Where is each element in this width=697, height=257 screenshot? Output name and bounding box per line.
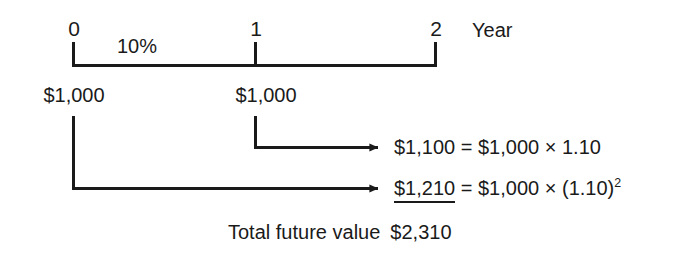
future-value-amount-1: $1,100 <box>394 136 455 158</box>
principal-amount-2: $1,000 <box>478 177 539 199</box>
future-value-amount-2: $1,210 <box>394 177 455 203</box>
future-value-timeline-diagram: 0 1 2 10% Year $1,000 $1,000 $1,100 = $1… <box>0 0 697 257</box>
multiply-sign-1: × <box>545 136 557 158</box>
total-future-value-row: Total future value$2,310 <box>228 222 452 242</box>
cash-flow-year-1: $1,000 <box>235 85 296 105</box>
growth-factor-2: (1.10) <box>562 177 614 199</box>
interest-rate-label: 10% <box>117 36 157 56</box>
cash-flow-year-0: $1,000 <box>43 85 104 105</box>
flow-path-year-1 <box>256 116 379 148</box>
axis-title-year: Year <box>472 20 512 40</box>
multiply-sign-2: × <box>545 177 557 199</box>
total-future-value-caption: Total future value <box>228 221 380 243</box>
growth-factor-exponent-2: 2 <box>614 176 621 190</box>
growth-factor-1: 1.10 <box>562 136 601 158</box>
tick-label-year-2: 2 <box>430 18 442 39</box>
tick-label-year-0: 0 <box>68 18 80 39</box>
equals-sign-2: = <box>461 177 473 199</box>
diagram-line-art <box>0 0 697 257</box>
future-value-formula-year-0: $1,210 = $1,000 × (1.10)2 <box>394 178 621 198</box>
principal-amount-1: $1,000 <box>478 136 539 158</box>
equals-sign-1: = <box>461 136 473 158</box>
total-future-value-amount: $2,310 <box>390 221 451 243</box>
flow-path-year-0 <box>74 116 379 189</box>
future-value-formula-year-1: $1,100 = $1,000 × 1.10 <box>394 137 601 157</box>
tick-label-year-1: 1 <box>250 18 262 39</box>
